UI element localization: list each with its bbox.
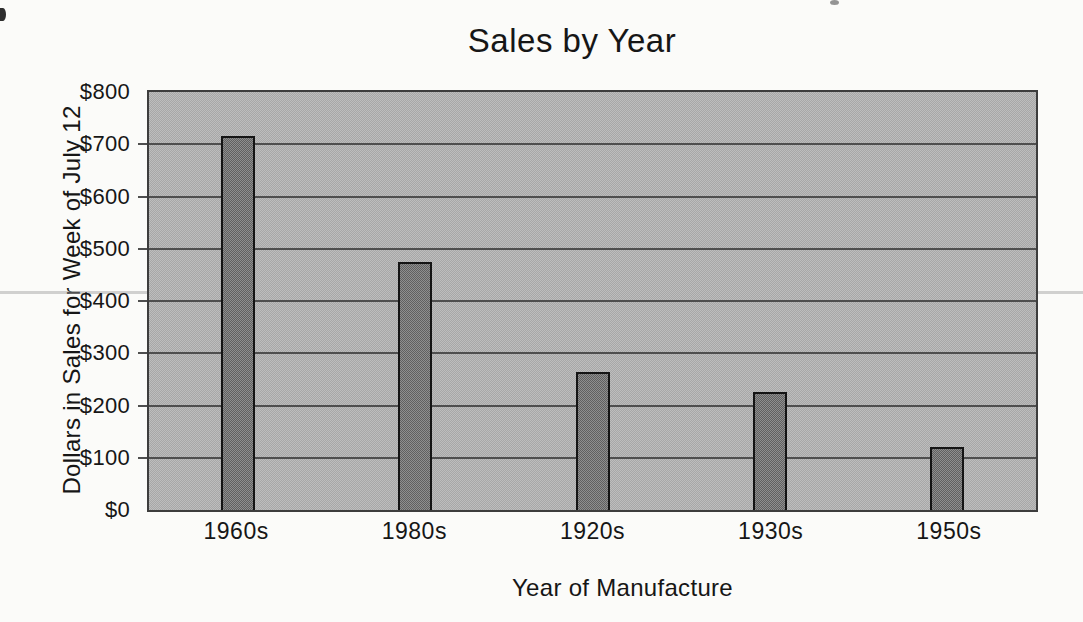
y-tick-label: $100 (80, 445, 130, 471)
plot-area (147, 90, 1038, 512)
y-tick-label: $400 (80, 288, 130, 314)
x-tick-label-1930s: 1930s (738, 518, 803, 545)
bar-1960s (221, 136, 255, 510)
y-tick-label: $200 (80, 393, 130, 419)
y-tick-label: $800 (80, 79, 130, 105)
chart-title: Sales by Year (147, 22, 997, 60)
bar-1980s (398, 262, 432, 510)
x-tick-label-1920s: 1920s (560, 518, 625, 545)
y-tick-mark (138, 196, 147, 198)
x-tick-label-1980s: 1980s (382, 518, 447, 545)
bar-1950s (930, 447, 964, 510)
y-tick-mark (138, 352, 147, 354)
y-tick-marks (138, 92, 147, 510)
y-tick-label: $600 (80, 184, 130, 210)
x-tick-label-1960s: 1960s (204, 518, 269, 545)
bar-1930s (753, 392, 787, 510)
y-tick-label: $700 (80, 131, 130, 157)
y-tick-mark (138, 405, 147, 407)
x-axis-title: Year of Manufacture (177, 574, 1068, 602)
bars (149, 92, 1036, 510)
y-tick-label: $0 (105, 497, 130, 523)
y-tick-mark (138, 457, 147, 459)
bar-1920s (576, 372, 610, 510)
x-tick-labels: 1960s1980s1920s1930s1950s (147, 518, 1038, 550)
x-tick-label-1950s: 1950s (916, 518, 981, 545)
y-tick-mark (138, 248, 147, 250)
scan-speck-icon (830, 0, 839, 5)
y-tick-mark (138, 300, 147, 302)
y-tick-label: $300 (80, 340, 130, 366)
scan-speck-icon (0, 8, 6, 21)
y-tick-label: $500 (80, 236, 130, 262)
y-tick-mark (138, 143, 147, 145)
y-tick-labels: $0$100$200$300$400$500$600$700$800 (0, 92, 138, 510)
